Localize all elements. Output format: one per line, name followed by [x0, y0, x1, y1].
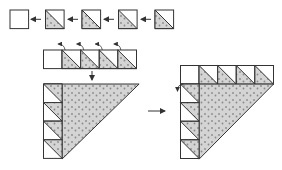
quilt-diagram — [0, 0, 282, 170]
step1-plain-square — [10, 10, 29, 29]
diagram-canvas — [0, 0, 282, 170]
step4-top-plain-square — [181, 66, 200, 85]
step2-plain-square — [44, 50, 63, 69]
